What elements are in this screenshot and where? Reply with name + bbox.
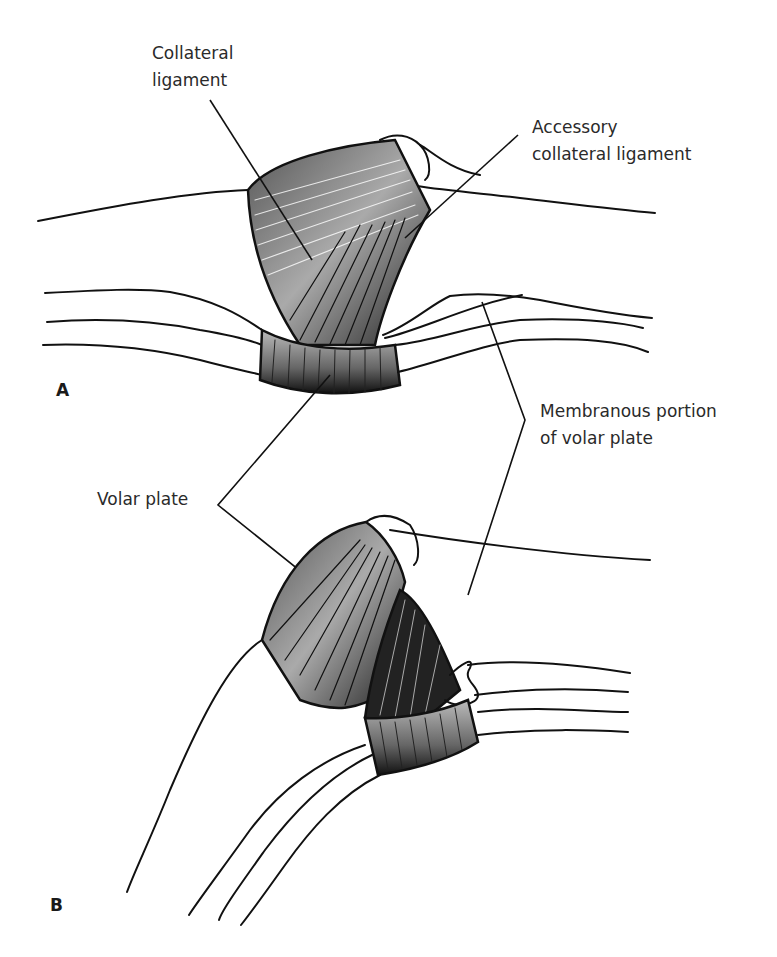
label-collateral-ligament-line2: ligament [152,67,233,94]
panel-label-a: A [56,380,69,400]
label-volar-plate: Volar plate [97,486,188,513]
label-collateral-ligament: Collateral ligament [152,40,233,94]
label-accessory-line2: collateral ligament [532,141,691,168]
label-accessory-collateral-ligament: Accessory collateral ligament [532,114,691,168]
label-volar-plate-line1: Volar plate [97,486,188,513]
label-membranous-line1: Membranous portion [540,398,717,425]
membranous-leader [468,302,525,595]
label-collateral-ligament-line1: Collateral [152,40,233,67]
label-membranous-portion: Membranous portion of volar plate [540,398,717,452]
panel-b-drawing [127,516,650,925]
label-membranous-line2: of volar plate [540,425,717,452]
panel-a-drawing [38,135,655,393]
label-accessory-line1: Accessory [532,114,691,141]
panel-label-b: B [50,895,63,915]
